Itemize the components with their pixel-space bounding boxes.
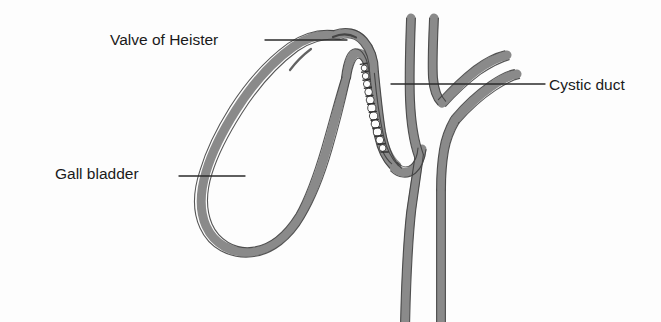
gall-bladder-inner-edge bbox=[208, 39, 343, 248]
duct-wall-group bbox=[201, 18, 517, 322]
spiral-fold bbox=[368, 104, 376, 112]
duct-outline-group bbox=[194, 18, 519, 322]
spiral-fold bbox=[362, 73, 369, 80]
spiral-fold bbox=[365, 88, 373, 96]
spiral-fold bbox=[363, 80, 370, 87]
fold-notch bbox=[362, 71, 369, 72]
fold-notch bbox=[364, 87, 371, 88]
diagram-canvas: Valve of Heister Gall bladder Cystic duc… bbox=[0, 0, 661, 322]
label-valve-of-heister: Valve of Heister bbox=[110, 32, 218, 48]
anatomy-figure bbox=[0, 0, 661, 322]
spiral-fold bbox=[373, 128, 381, 136]
fold-notch bbox=[363, 79, 370, 80]
fold-notch bbox=[373, 127, 380, 128]
gall-bladder-outer-wall bbox=[201, 35, 346, 253]
label-cystic-duct: Cystic duct bbox=[549, 77, 625, 93]
fold-notch bbox=[368, 103, 375, 104]
common-bile-duct-left-wall bbox=[405, 156, 419, 322]
fold-notch bbox=[375, 136, 382, 137]
label-gall-bladder: Gall bladder bbox=[55, 166, 139, 182]
fold-notch bbox=[371, 119, 378, 120]
spiral-fold bbox=[361, 65, 367, 71]
spiral-fold bbox=[366, 96, 374, 104]
fold-notch bbox=[369, 111, 376, 112]
fold-notch bbox=[366, 95, 373, 96]
spiral-fold bbox=[376, 136, 384, 144]
spiral-fold bbox=[379, 145, 386, 152]
